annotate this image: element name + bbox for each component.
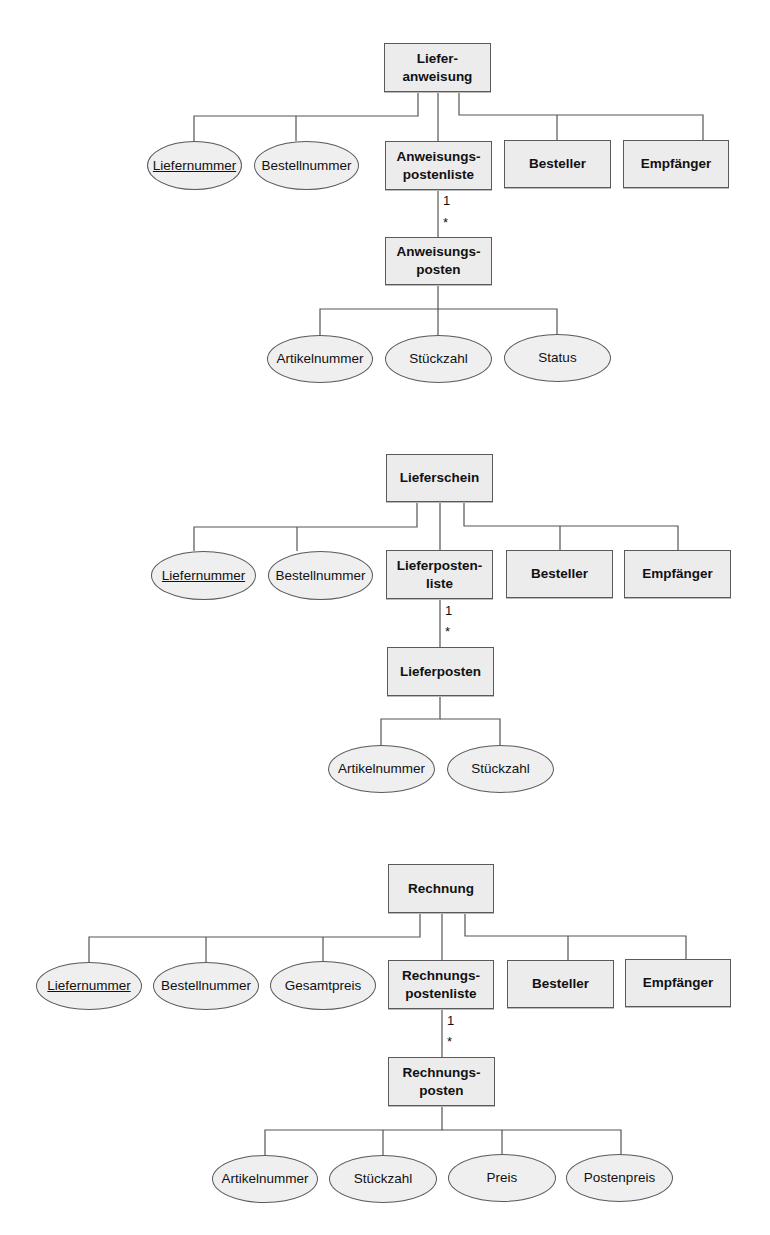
multiplicity-label: 1: [445, 603, 452, 618]
attribute-ellipse-b1: Artikelnummer: [212, 1155, 318, 1203]
entity-box-e1: Besteller: [507, 960, 614, 1008]
node-label: Rechnung: [408, 880, 474, 898]
connector-line: [89, 913, 420, 962]
attribute-ellipse-b2: Stückzahl: [447, 745, 554, 793]
node-label: Liefernummer: [162, 567, 245, 585]
diagram-lieferanweisung-connectors: [194, 92, 703, 335]
node-label: Liefernummer: [47, 977, 130, 995]
diagram-canvas: Liefer- anweisungLiefernummerBestellnumm…: [0, 0, 770, 1235]
node-label: Stückzahl: [354, 1170, 413, 1188]
entity-box-list: Anweisungs- postenliste: [385, 141, 492, 190]
node-label: Liefer- anweisung: [403, 50, 473, 86]
entity-box-e1: Besteller: [504, 140, 611, 188]
attribute-ellipse-a1: Liefernummer: [147, 141, 242, 190]
node-label: Bestellnummer: [261, 157, 351, 175]
node-label: Artikelnummer: [338, 760, 425, 778]
node-label: Empfänger: [641, 155, 712, 173]
node-label: Lieferschein: [400, 469, 480, 487]
attribute-ellipse-b1: Artikelnummer: [328, 745, 435, 793]
node-label: Rechnungs- postenliste: [402, 967, 480, 1003]
node-label: Empfänger: [643, 974, 714, 992]
node-label: Preis: [487, 1169, 518, 1187]
node-label: Artikelnummer: [276, 350, 363, 368]
node-label: Rechnungs- posten: [402, 1064, 480, 1100]
node-label: Besteller: [531, 565, 588, 583]
multiplicity-label: *: [447, 1034, 452, 1049]
connector-line: [440, 719, 500, 745]
connector-line: [320, 285, 438, 335]
attribute-ellipse-b1: Artikelnummer: [267, 335, 373, 383]
entity-box-list: Rechnungs- postenliste: [388, 960, 494, 1009]
attribute-ellipse-a1: Liefernummer: [36, 962, 142, 1010]
attribute-ellipse-b2: Stückzahl: [385, 335, 492, 383]
entity-box-root: Lieferschein: [386, 454, 493, 502]
attribute-ellipse-b3: Status: [504, 334, 611, 382]
node-label: Liefernummer: [153, 157, 236, 175]
node-label: Artikelnummer: [221, 1170, 308, 1188]
node-label: Stückzahl: [471, 760, 530, 778]
multiplicity-label: 1: [443, 193, 450, 208]
node-label: Stückzahl: [409, 350, 468, 368]
entity-box-root: Liefer- anweisung: [384, 43, 491, 92]
node-label: Status: [538, 349, 576, 367]
node-label: Besteller: [529, 155, 586, 173]
multiplicity-label: 1: [447, 1013, 454, 1028]
entity-box-item: Anweisungs- posten: [385, 237, 492, 285]
connector-line: [194, 92, 418, 141]
attribute-ellipse-b4: Postenpreis: [566, 1154, 673, 1202]
multiplicity-label: *: [445, 624, 450, 639]
node-label: Besteller: [532, 975, 589, 993]
connector-line: [442, 1130, 621, 1154]
node-label: Anweisungs- posten: [396, 243, 480, 279]
attribute-ellipse-a3: Gesamtpreis: [270, 961, 376, 1010]
node-label: Lieferposten- liste: [397, 557, 483, 593]
attribute-ellipse-a2: Bestellnummer: [254, 141, 359, 190]
node-label: Bestellnummer: [161, 977, 251, 995]
attribute-ellipse-a2: Bestellnummer: [153, 962, 259, 1010]
connector-line: [464, 502, 678, 550]
entity-box-e1: Besteller: [506, 550, 613, 598]
connector-line: [381, 696, 440, 745]
entity-box-list: Lieferposten- liste: [386, 550, 493, 599]
connector-line: [194, 502, 417, 551]
attribute-ellipse-a1: Liefernummer: [151, 551, 256, 600]
node-label: Lieferposten: [400, 663, 481, 681]
connector-line: [438, 309, 557, 334]
node-label: Anweisungs- postenliste: [396, 148, 480, 184]
node-label: Empfänger: [642, 565, 713, 583]
multiplicity-label: *: [443, 215, 448, 230]
entity-box-item: Rechnungs- posten: [388, 1057, 495, 1106]
attribute-ellipse-a2: Bestellnummer: [268, 551, 373, 600]
entity-box-e2: Empfänger: [625, 959, 731, 1007]
entity-box-e2: Empfänger: [623, 140, 729, 188]
connector-line: [459, 92, 703, 140]
node-label: Postenpreis: [584, 1169, 655, 1187]
entity-box-root: Rechnung: [388, 864, 494, 913]
entity-box-item: Lieferposten: [387, 647, 494, 696]
connector-line: [265, 1106, 442, 1155]
attribute-ellipse-b3: Preis: [448, 1154, 556, 1202]
diagram-rechnung-connectors: [89, 913, 686, 1155]
attribute-ellipse-b2: Stückzahl: [329, 1155, 437, 1203]
connector-line: [465, 913, 686, 959]
node-label: Gesamtpreis: [285, 977, 362, 995]
entity-box-e2: Empfänger: [624, 550, 731, 598]
diagram-lieferschein-connectors: [194, 502, 678, 745]
node-label: Bestellnummer: [275, 567, 365, 585]
